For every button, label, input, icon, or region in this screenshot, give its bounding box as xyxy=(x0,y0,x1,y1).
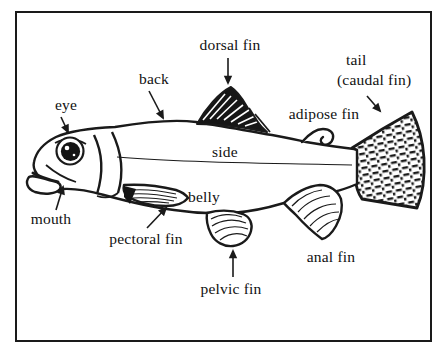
pelvic-fin-drawing xyxy=(207,211,252,246)
back-arrow xyxy=(149,91,163,118)
label-dorsal-fin: dorsal fin xyxy=(200,37,261,53)
label-back: back xyxy=(139,71,169,87)
figure: eye back dorsal fin tail (caudal fin) ad… xyxy=(0,0,444,352)
tail-fin-drawing xyxy=(352,112,424,208)
label-anal-fin: anal fin xyxy=(307,249,356,265)
label-eye: eye xyxy=(55,97,77,113)
label-pectoral-fin: pectoral fin xyxy=(109,231,182,247)
label-adipose-fin: adipose fin xyxy=(289,106,360,122)
label-tail-line1: tail xyxy=(346,50,411,70)
label-tail: tail (caudal fin) xyxy=(337,50,411,91)
label-pelvic-fin: pelvic fin xyxy=(201,281,262,297)
tail-arrow xyxy=(367,96,380,111)
label-belly: belly xyxy=(188,189,220,205)
pectoral-fin-arrow xyxy=(147,208,166,228)
eye-arrow xyxy=(61,117,68,132)
label-tail-line2: (caudal fin) xyxy=(337,70,411,90)
label-side: side xyxy=(212,144,238,160)
label-mouth: mouth xyxy=(31,211,72,227)
